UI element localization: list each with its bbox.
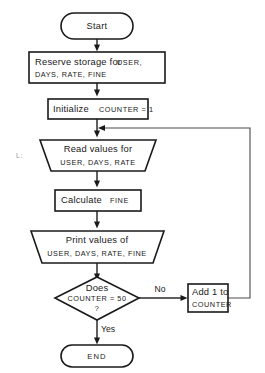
increment-line1: Add 1 to	[192, 286, 229, 297]
increment-line2-vars: COUNTER	[192, 300, 232, 309]
arrow-loop-rejoin	[98, 125, 105, 131]
arrow-calculate-to-print	[94, 222, 100, 229]
read-values-line2-vars: USER, DAYS, RATE	[60, 158, 135, 167]
start-label: Start	[87, 21, 108, 31]
reserve-storage-line1: Reserve storage for	[35, 56, 121, 67]
reserve-storage-line1-vars: USER,	[117, 58, 142, 67]
decision-line2-vars: COUNTER = 50	[67, 294, 126, 303]
print-values-line2-vars: USER, DAYS, RATE, FINE	[47, 249, 146, 258]
arrow-read-to-calculate	[94, 181, 100, 188]
calculate-vars: FINE	[110, 196, 129, 205]
flowchart-svg: Start Reserve storage for USER, DAYS, RA…	[0, 0, 265, 373]
node-calculate[interactable]: Calculate FINE	[55, 190, 141, 211]
decision-line1: Does	[86, 282, 109, 293]
arrow-decision-to-end	[94, 338, 100, 345]
initialize-label: Initialize	[53, 103, 89, 114]
flowchart-canvas: Start Reserve storage for USER, DAYS, RA…	[0, 0, 265, 373]
arrow-decision-to-increment	[181, 295, 188, 301]
arrow-reserve-to-initialize	[94, 90, 100, 97]
node-start[interactable]: Start	[61, 13, 133, 39]
arrow-initialize-to-read	[94, 131, 100, 138]
branch-label-yes: Yes	[101, 324, 115, 334]
initialize-vars: COUNTER = 1	[99, 105, 154, 114]
calculate-label: Calculate	[61, 194, 102, 205]
decision-line3: ?	[95, 304, 100, 313]
node-end[interactable]: END	[61, 345, 133, 367]
node-print-values[interactable]: Print values of USER, DAYS, RATE, FINE	[31, 231, 164, 263]
node-decision[interactable]: Does COUNTER = 50 ?	[55, 277, 139, 320]
node-increment[interactable]: Add 1 to COUNTER	[188, 284, 232, 312]
print-values-line1: Print values of	[66, 234, 129, 245]
end-label: END	[87, 352, 107, 361]
node-read-values[interactable]: Read values for USER, DAYS, RATE	[40, 140, 156, 171]
reserve-storage-line2-vars: DAYS, RATE, FINE	[35, 70, 107, 79]
arrow-start-to-reserve	[94, 45, 100, 52]
loop-label-marker: L:	[16, 152, 23, 159]
branch-label-no: No	[155, 284, 166, 294]
node-reserve-storage[interactable]: Reserve storage for USER, DAYS, RATE, FI…	[29, 52, 165, 83]
read-values-line1: Read values for	[64, 143, 133, 154]
node-initialize[interactable]: Initialize COUNTER = 1	[48, 99, 154, 119]
